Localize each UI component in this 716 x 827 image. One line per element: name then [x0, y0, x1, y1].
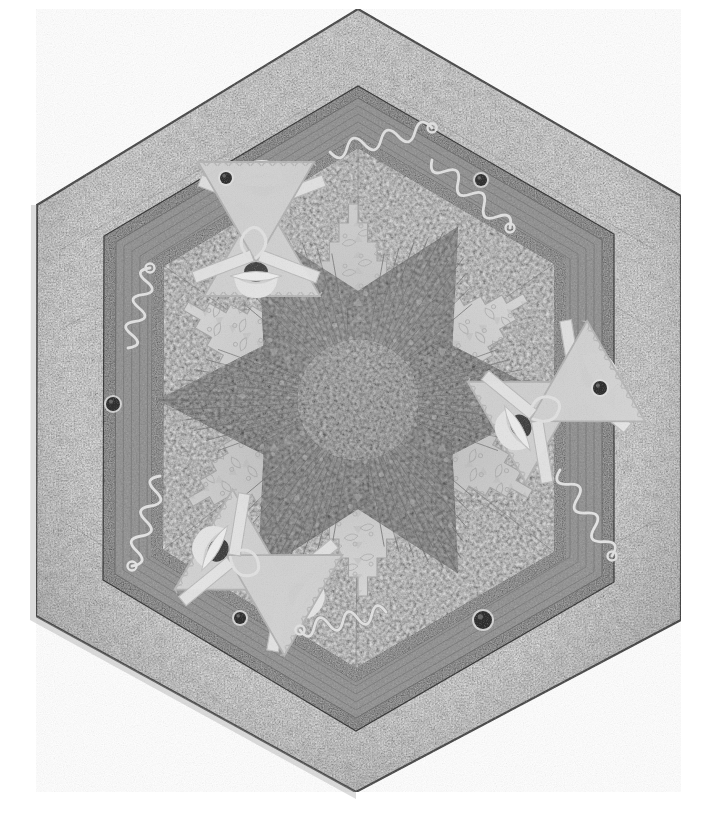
image-canvas: Photograph of a hand-made hexagonal quil…: [0, 0, 716, 827]
quilt-photograph: [0, 0, 716, 827]
